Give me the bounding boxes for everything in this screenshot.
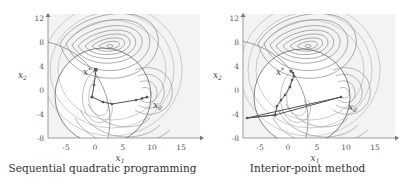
svg-text:4: 4 — [234, 62, 239, 71]
svg-text:0: 0 — [234, 86, 239, 95]
svg-text:0: 0 — [39, 86, 44, 95]
x-tick-labels: -5 0 5 10 15 — [62, 143, 186, 152]
svg-text:0: 0 — [93, 143, 98, 152]
y-tick-labels: 12 8 4 0 -4 -8 — [229, 14, 239, 143]
y-axis-label: x2 — [18, 70, 27, 81]
svg-text:-8: -8 — [232, 134, 240, 143]
svg-text:-5: -5 — [62, 143, 70, 152]
svg-text:10: 10 — [147, 143, 157, 152]
svg-text:5: 5 — [121, 143, 126, 152]
x-tick-labels: -5 0 5 10 15 — [256, 143, 380, 152]
y-axis-label: x2 — [213, 70, 222, 81]
sqp-caption: Sequential quadratic programming — [0, 162, 205, 174]
svg-text:10: 10 — [341, 143, 351, 152]
sqp-chart: 12 8 4 0 -4 -8 -5 0 5 10 15 x1 x2 x* x0 — [0, 0, 205, 188]
svg-text:-8: -8 — [37, 134, 45, 143]
svg-text:15: 15 — [176, 143, 186, 152]
svg-text:-5: -5 — [256, 143, 264, 152]
svg-text:4: 4 — [39, 62, 44, 71]
svg-text:8: 8 — [39, 38, 44, 47]
svg-text:-4: -4 — [232, 110, 240, 119]
y-tick-labels: 12 8 4 0 -4 -8 — [34, 14, 44, 143]
x-axis-arrow-icon — [395, 136, 399, 141]
svg-text:0: 0 — [286, 143, 291, 152]
svg-text:12: 12 — [34, 14, 44, 23]
svg-text:5: 5 — [315, 143, 320, 152]
svg-text:15: 15 — [370, 143, 380, 152]
x-axis-arrow-icon — [200, 136, 204, 141]
interior-point-caption: Interior-point method — [205, 162, 410, 174]
interior-point-chart: 12 8 4 0 -4 -8 -5 0 5 10 15 x1 x2 x* x0 — [205, 0, 410, 188]
interior-point-panel: 12 8 4 0 -4 -8 -5 0 5 10 15 x1 x2 x* x0 … — [205, 0, 410, 188]
svg-text:8: 8 — [234, 38, 239, 47]
svg-text:-4: -4 — [37, 110, 45, 119]
svg-text:12: 12 — [229, 14, 239, 23]
sqp-panel: 12 8 4 0 -4 -8 -5 0 5 10 15 x1 x2 x* x0 … — [0, 0, 205, 188]
